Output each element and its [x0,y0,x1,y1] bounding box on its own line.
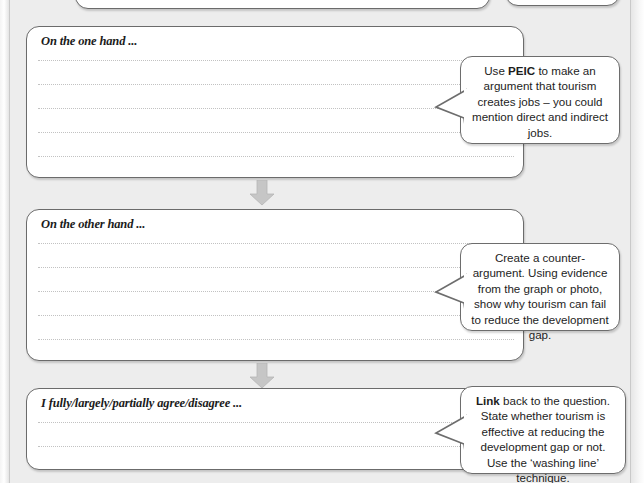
section-one-hand-frame[interactable]: On the one hand ... [26,26,524,178]
arrow-down-icon-1 [249,180,275,206]
worksheet-page: On the one hand ... Use PEIC to make an … [0,0,644,483]
section-conclusion-frame[interactable]: I fully/largely/partially agree/disagree… [26,388,524,470]
section-conclusion-title: I fully/largely/partially agree/disagree… [41,396,242,411]
hint-bubble-counter-text: Create a counter-argument. Using evidenc… [461,244,619,348]
writing-rule [38,446,514,447]
writing-rule [38,422,514,423]
writing-rule [38,60,514,61]
bubble-bold: Link [476,394,500,407]
partial-box-narrow [505,0,620,6]
partial-box-wide [75,0,490,9]
hint-bubble-link: Link back to the question. State whether… [460,386,626,474]
bubble-rest: back to the question. State whether tour… [480,394,610,483]
arrow-down-icon-2 [249,363,275,389]
hint-bubble-peic-text: Use PEIC to make an argument that touris… [461,57,619,146]
writing-rule [38,243,514,244]
section-one-hand-title: On the one hand ... [41,34,137,49]
page-edge-left [0,0,10,483]
hint-bubble-counter: Create a counter-argument. Using evidenc… [460,243,620,331]
hint-bubble-link-text: Link back to the question. State whether… [461,387,625,483]
writing-rule [38,108,514,109]
bubble-rest: Create a counter-argument. Using evidenc… [471,251,608,341]
section-other-hand-title: On the other hand ... [41,217,145,232]
writing-rule [38,339,514,340]
section-other-hand-frame[interactable]: On the other hand ... [26,209,524,361]
hint-bubble-peic: Use PEIC to make an argument that touris… [460,56,620,144]
writing-rule [38,267,514,268]
writing-rule [38,156,514,157]
bubble-lead: Use [484,64,508,77]
bubble-bold: PEIC [508,64,535,77]
page-edge-right [630,0,644,483]
writing-rule [38,132,514,133]
writing-rule [38,84,514,85]
writing-rule [38,291,514,292]
writing-rule [38,315,514,316]
